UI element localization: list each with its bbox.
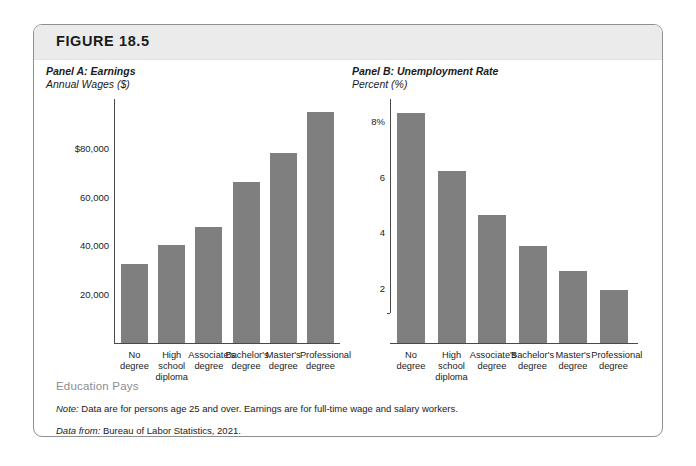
x-axis-line [114, 343, 340, 344]
bar [600, 290, 628, 343]
panel-a-subtitle: Annual Wages ($) [46, 78, 130, 90]
x-axis-category-label: High school diploma [151, 350, 192, 384]
panel-b-title: Panel B: Unemployment Rate [352, 65, 498, 77]
y-axis-tick-mark [387, 313, 390, 314]
panel-a-title: Panel A: Earnings [46, 65, 135, 77]
bar [397, 113, 425, 343]
bar [121, 264, 148, 343]
bar [270, 153, 297, 343]
x-axis-category-label: Master's degree [263, 350, 304, 372]
figure-card: FIGURE 18.5 Panel A: Earnings Annual Wag… [33, 24, 663, 437]
y-axis-tick-label: $80,000 [46, 142, 109, 153]
source-lead: Data from: [56, 425, 100, 436]
bar [195, 227, 222, 343]
bar [158, 245, 185, 343]
note-text: Data are for persons age 25 and over. Ea… [79, 403, 458, 414]
y-axis-tick-label: 8% [352, 116, 385, 127]
x-axis-category-label: No degree [114, 350, 155, 372]
x-axis-category-label: Bachelor's degree [226, 350, 267, 372]
y-axis-tick-label: 60,000 [46, 191, 109, 202]
bar [559, 271, 587, 343]
bar [233, 182, 260, 343]
y-axis-tick-label: 20,000 [46, 289, 109, 300]
figure-footer: Education Pays Note: Data are for person… [56, 380, 646, 437]
x-axis-category-label: Associate's degree [188, 350, 229, 372]
bar [478, 215, 506, 343]
source-text: Bureau of Labor Statistics, 2021. [100, 425, 240, 436]
bar [307, 112, 334, 343]
figure-source: Data from: Bureau of Labor Statistics, 2… [56, 425, 646, 436]
y-axis-line [390, 99, 391, 313]
bar [519, 246, 547, 343]
x-axis-category-label: Associate's degree [470, 350, 515, 372]
x-axis-category-label: Professional degree [591, 350, 636, 372]
panel-b-subtitle: Percent (%) [352, 78, 407, 90]
x-axis-category-label: No degree [389, 350, 434, 372]
x-axis-category-label: Professional degree [300, 350, 341, 372]
note-lead: Note: [56, 403, 79, 414]
figure-title: FIGURE 18.5 [56, 33, 150, 49]
y-axis-tick-label: 4 [352, 227, 385, 238]
footer-heading: Education Pays [56, 380, 646, 392]
panel-b-plot-area: 2468%No degreeHigh school diplomaAssocia… [352, 95, 657, 385]
y-axis-tick-label: 40,000 [46, 240, 109, 251]
panel-a-plot-area: 20,00040,00060,000$80,000No degreeHigh s… [46, 95, 356, 385]
x-axis-line [390, 343, 638, 344]
x-axis-category-label: Master's degree [551, 350, 596, 372]
bar [438, 171, 466, 343]
figure-note: Note: Data are for persons age 25 and ov… [56, 403, 646, 414]
y-axis-tick-label: 2 [352, 282, 385, 293]
x-axis-category-label: Bachelor's degree [510, 350, 555, 372]
y-axis-tick-label: 6 [352, 171, 385, 182]
x-axis-category-label: High school diploma [429, 350, 474, 384]
y-axis-line [114, 99, 115, 343]
